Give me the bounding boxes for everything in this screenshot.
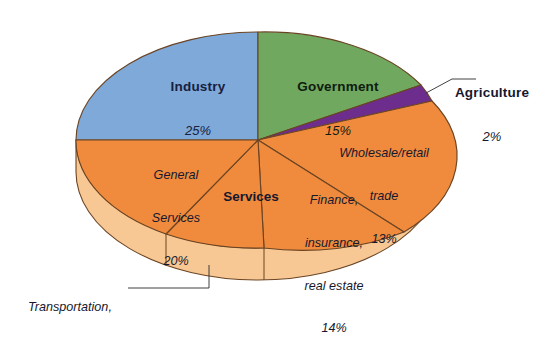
pie-chart-graphic <box>0 0 547 341</box>
slice-industry <box>76 32 258 140</box>
pie-top-face <box>76 32 457 250</box>
pie-chart-figure: Industry 25% Government 15% Agriculture … <box>0 0 547 341</box>
leader-line-agriculture <box>426 79 476 93</box>
